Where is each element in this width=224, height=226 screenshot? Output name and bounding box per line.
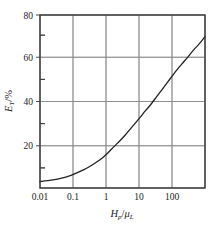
xtick-label-1: 1 bbox=[104, 192, 109, 202]
y-major-ticks bbox=[36, 15, 40, 146]
x-axis-title: Hp/μL bbox=[109, 208, 133, 221]
x-axis-title-sub2: L bbox=[129, 213, 134, 221]
xtick-label-10: 10 bbox=[134, 192, 144, 202]
chart-figure: 80 60 40 20 0.01 0.1 1 10 100 Hp/μL ET/% bbox=[0, 0, 224, 226]
xtick-label-0.1: 0.1 bbox=[67, 192, 79, 202]
ytick-label-60: 60 bbox=[24, 53, 34, 63]
xtick-label-0.01: 0.01 bbox=[32, 192, 49, 202]
ytick-label-80: 80 bbox=[24, 11, 34, 21]
ytick-label-40: 40 bbox=[24, 97, 34, 107]
ytick-label-20: 20 bbox=[24, 141, 34, 151]
semilog-chart: 80 60 40 20 0.01 0.1 1 10 100 Hp/μL ET/% bbox=[0, 0, 224, 226]
y-axis-title: ET/% bbox=[3, 90, 16, 113]
y-axis-title-unit: % bbox=[3, 90, 14, 99]
xtick-label-100: 100 bbox=[165, 192, 180, 202]
